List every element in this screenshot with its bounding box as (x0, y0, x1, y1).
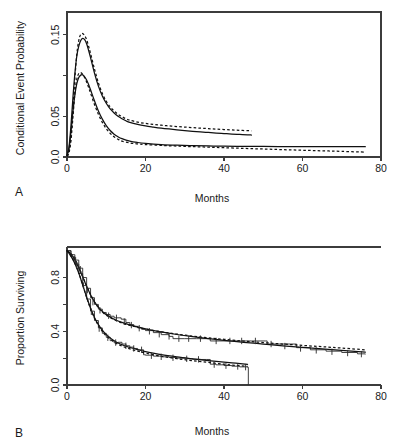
survival-figure: 0.00.050.15020406080MonthsConditional Ev… (0, 0, 406, 448)
x-tick-label: 60 (297, 162, 309, 174)
panel-b: 0.00.40.8020406080MonthsProportion Survi… (14, 247, 387, 440)
y-tick-label: 0.15 (49, 24, 61, 45)
x-tick-label: 40 (218, 390, 230, 402)
plot-frame (67, 12, 381, 157)
x-axis-title: Months (195, 192, 229, 204)
y-tick-label: 0.8 (49, 270, 61, 285)
panel-letter-b: B (15, 426, 23, 440)
y-tick-label: 0.0 (49, 378, 61, 393)
x-tick-label: 60 (297, 390, 309, 402)
upper-model-solid (67, 251, 365, 352)
x-tick-label: 80 (375, 162, 387, 174)
x-tick-label: 20 (140, 390, 152, 402)
y-tick-label: 0.0 (49, 150, 61, 165)
x-tick-label: 0 (64, 390, 70, 402)
panel-a: 0.00.050.15020406080MonthsConditional Ev… (14, 12, 387, 204)
x-tick-label: 0 (64, 162, 70, 174)
y-axis-title: Proportion Surviving (14, 271, 26, 366)
lower-model-dashed (67, 251, 248, 367)
y-tick-label: 0.4 (49, 324, 61, 339)
x-tick-label: 40 (218, 162, 230, 174)
y-axis-title: Conditional Event Probability (14, 20, 26, 155)
group-2-dashed (67, 73, 365, 157)
x-tick-label: 20 (140, 162, 152, 174)
group-1-dashed (67, 33, 251, 156)
upper-model-dashed (67, 251, 365, 350)
group-2-solid (67, 75, 365, 156)
x-tick-label: 80 (375, 390, 387, 402)
x-axis-title: Months (195, 425, 229, 437)
group-1-solid (67, 38, 251, 155)
y-tick-label: 0.05 (49, 106, 61, 127)
figure-container: 0.00.050.15020406080MonthsConditional Ev… (0, 0, 406, 448)
lower-model-solid (67, 251, 248, 365)
panel-letter-a: A (15, 185, 23, 199)
